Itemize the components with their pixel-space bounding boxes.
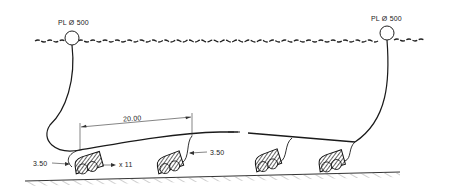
diagram-canvas: PL Ø 500 PL Ø 500 20.00 — [0, 0, 451, 193]
pot-2 — [155, 151, 184, 175]
dropper-dimension-mid: 3.50 — [189, 149, 224, 156]
mainline — [80, 132, 355, 150]
dropper-dimension-left: 3.50 — [33, 160, 70, 167]
pot-4 — [318, 149, 347, 172]
spacing-dimension: 20.00 — [80, 113, 192, 150]
dropper-length-left-label: 3.50 — [33, 160, 47, 167]
dropper-3 — [280, 138, 292, 162]
buoy-right-label: PL Ø 500 — [371, 15, 402, 22]
buoy-right: PL Ø 500 — [371, 15, 402, 40]
dropper-2 — [182, 136, 192, 163]
buoy-left-label: PL Ø 500 — [58, 19, 89, 26]
pot-1 — [74, 151, 105, 175]
spacing-label: 20.00 — [123, 114, 142, 122]
buoy-rope-left — [47, 45, 80, 151]
pot-3 — [253, 149, 282, 173]
dropper-4 — [345, 142, 355, 161]
dropper-length-mid-label: 3.50 — [210, 149, 224, 156]
buoy-rope-right — [355, 40, 388, 142]
water-surface — [35, 39, 424, 42]
pot-count-label: x 11 — [119, 161, 133, 168]
pot-count-indicator: x 11 — [103, 161, 133, 168]
